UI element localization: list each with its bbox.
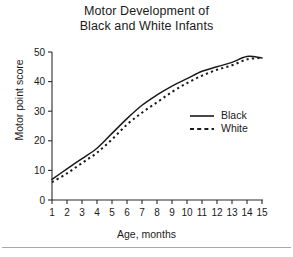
x-tick-label: 14 <box>241 207 253 218</box>
y-tick-label: 20 <box>34 135 46 146</box>
x-tick-label: 10 <box>181 207 193 218</box>
x-tick-label: 5 <box>109 207 115 218</box>
y-tick-label: 40 <box>34 76 46 87</box>
x-tick-label: 2 <box>64 207 70 218</box>
legend-item-black: Black <box>189 110 269 121</box>
legend-item-white: White <box>189 123 269 134</box>
x-tick-label: 11 <box>197 207 208 218</box>
x-tick-label: 7 <box>139 207 145 218</box>
x-tick-label: 6 <box>124 207 130 218</box>
y-axis-title: Motor point score <box>13 45 25 155</box>
legend-label-white: White <box>221 123 248 134</box>
y-tick-label: 50 <box>34 47 46 58</box>
x-axis-title: Age, months <box>0 228 293 240</box>
legend-label-black: Black <box>221 110 247 121</box>
legend-swatch-dashed <box>189 124 215 134</box>
x-tick-label: 8 <box>154 207 160 218</box>
footer-rule <box>2 247 291 248</box>
y-tick-label: 30 <box>34 106 46 117</box>
x-tick-label: 13 <box>226 207 238 218</box>
chart-legend: Black White <box>189 110 269 136</box>
y-tick-label: 0 <box>39 195 45 206</box>
x-tick-label: 15 <box>256 207 268 218</box>
x-tick-label: 9 <box>169 207 175 218</box>
y-tick-label: 10 <box>34 165 46 176</box>
x-tick-label: 1 <box>49 207 55 218</box>
x-tick-label: 3 <box>79 207 85 218</box>
legend-swatch-solid <box>189 111 215 121</box>
figure-container: Motor Development of Black and White Inf… <box>0 0 293 257</box>
x-tick-label: 4 <box>94 207 100 218</box>
x-tick-label: 12 <box>211 207 223 218</box>
